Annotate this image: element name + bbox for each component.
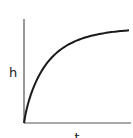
growth-curve-chart: h t xyxy=(0,0,133,138)
y-axis-label: h xyxy=(9,65,17,80)
x-axis-label: t xyxy=(74,130,79,138)
data-curve xyxy=(24,30,129,123)
